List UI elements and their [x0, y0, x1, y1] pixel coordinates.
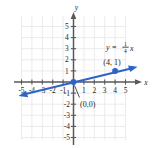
y-tick-label: -2: [64, 100, 70, 109]
y-axis-label: y: [74, 3, 79, 12]
x-axis-label: x: [143, 78, 148, 87]
x-tick-label: 1: [82, 86, 86, 95]
y-tick-label: 4: [65, 33, 69, 42]
point-4-1-marker: [112, 68, 118, 74]
x-tick-label: 2: [92, 86, 96, 95]
y-tick-label: 1: [65, 67, 69, 76]
y-tick-label: -4: [64, 122, 70, 131]
y-tick-label: -1: [64, 89, 70, 98]
equation-lhs: y =: [105, 43, 117, 52]
x-tick-label: 4: [113, 86, 117, 95]
y-tick-label: 3: [65, 44, 69, 53]
coordinate-plane-svg: -5 -4 -3 -2 -1 1 2 3 4 5 5 4 3 2 1 -1 -2…: [0, 0, 161, 148]
x-tick-label: 5: [124, 86, 128, 95]
x-tick-label: 3: [103, 86, 107, 95]
equation-fraction-denominator: 4: [124, 48, 127, 54]
origin-leader-line: [75, 86, 80, 98]
equation-label: y = 1 4 x: [105, 41, 134, 55]
x-axis-arrowhead: [135, 79, 142, 85]
equation-variable: x: [129, 44, 134, 53]
origin-label: (0,0): [80, 100, 96, 109]
graph-figure: -5 -4 -3 -2 -1 1 2 3 4 5 5 4 3 2 1 -1 -2…: [0, 0, 161, 148]
y-tick-label: -3: [64, 111, 70, 120]
y-axis-arrowhead: [71, 12, 77, 19]
point-label-4-1: (4, 1): [103, 58, 121, 67]
equation-fraction-numerator: 1: [124, 41, 127, 47]
line-right-arrowhead: [128, 65, 138, 72]
y-tick-label: -5: [64, 133, 70, 142]
axes: [14, 12, 142, 145]
y-tick-label: 2: [65, 55, 69, 64]
point-origin-marker: [71, 79, 77, 85]
y-tick-label: 5: [65, 22, 69, 31]
